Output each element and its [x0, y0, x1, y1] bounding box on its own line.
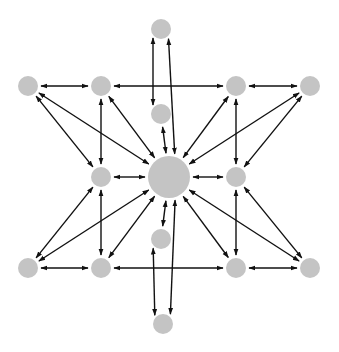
node-inner-mid-left: [91, 167, 111, 187]
node-inner-bottom-right: [226, 258, 246, 278]
edge-arrow-upper-mid-center: [163, 127, 166, 153]
node-upper-mid: [151, 104, 171, 124]
network-diagram: [0, 0, 339, 352]
edge-arrow-center-outer-bottom-right: [189, 190, 299, 261]
node-center: [148, 156, 190, 198]
edge-arrow-top-center: [169, 39, 175, 154]
edge-arrow-center-outer-top-right: [189, 93, 299, 164]
node-inner-bottom-left: [91, 258, 111, 278]
node-bottom: [153, 314, 173, 334]
node-inner-top-right: [226, 76, 246, 96]
node-top: [151, 19, 171, 39]
edge-arrow-center-inner-top-right: [183, 97, 228, 158]
edge-arrow-lower-mid-bottom: [153, 248, 155, 315]
edge-arrow-center-lower-mid: [163, 201, 166, 226]
edge-arrow-outer-bottom-right-inner-mid-right: [244, 187, 302, 258]
node-outer-bottom-right: [300, 258, 320, 278]
edge-arrow-outer-top-left-inner-mid-left: [36, 96, 93, 167]
edge-arrow-center-inner-bottom-right: [183, 196, 228, 257]
edge-arrow-outer-top-right-inner-mid-right: [244, 96, 302, 167]
edge-arrow-center-inner-bottom-left: [109, 196, 155, 257]
node-outer-top-left: [18, 76, 38, 96]
edge-arrow-center-inner-top-left: [109, 96, 155, 157]
edge-arrow-bottom-center: [170, 200, 175, 314]
nodes-layer: [18, 19, 320, 334]
node-inner-mid-right: [226, 167, 246, 187]
node-lower-mid: [151, 229, 171, 249]
node-outer-bottom-left: [18, 258, 38, 278]
node-inner-top-left: [91, 76, 111, 96]
node-outer-top-right: [300, 76, 320, 96]
edge-arrow-outer-bottom-left-inner-mid-left: [36, 187, 93, 258]
